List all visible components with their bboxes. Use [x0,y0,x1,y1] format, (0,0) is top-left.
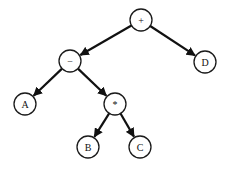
node-label: A [21,99,29,110]
node-label: C [137,142,144,153]
edge-minus-A [34,69,62,96]
edge-minus-times [78,69,106,96]
node-label: * [113,99,118,110]
node-label: + [138,15,144,26]
edge-times-C [121,114,134,137]
node-minus: − [59,50,81,72]
edge-plus-D [150,26,195,55]
node-times: * [104,93,126,115]
node-label: − [67,56,73,67]
node-plus: + [130,9,152,31]
node-B: B [77,136,99,158]
edge-plus-minus [80,26,131,55]
node-C: C [129,136,151,158]
node-D: D [194,51,216,73]
node-A: A [14,93,36,115]
edges [34,26,195,137]
nodes: +−DA*BC [14,9,216,158]
expression-tree: +−DA*BC [0,0,228,169]
node-label: D [201,57,208,68]
node-label: B [85,142,92,153]
edge-times-B [94,113,109,137]
